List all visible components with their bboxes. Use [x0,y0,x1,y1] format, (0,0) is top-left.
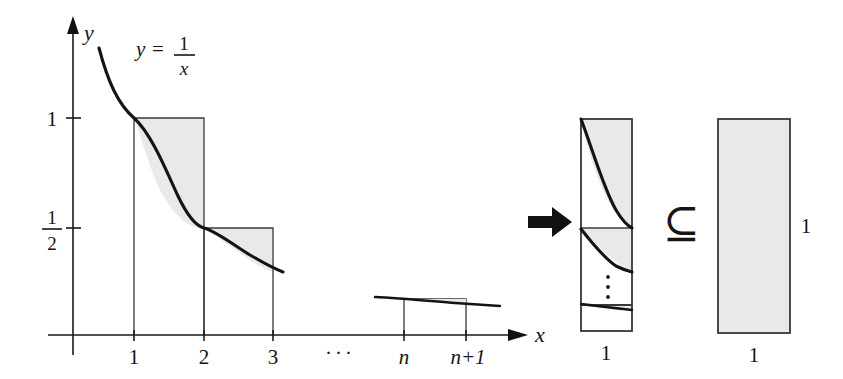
x-tick-label-3: 3 [268,345,279,369]
unit-box-panel: 1 1 [718,119,811,367]
subset-symbol: ⊆ [663,199,700,248]
stack-vertical-ellipsis-icon [606,275,610,299]
stack-width-label: 1 [601,341,612,365]
x-tick-label-2: 2 [199,345,210,369]
y-tick-label-one-half: 1 2 [42,207,62,254]
stack-shade-segment-2 [581,229,632,271]
y-axis-arrowhead [67,16,79,34]
curve-label-equals: = [152,37,164,61]
x-axis-arrowhead [508,329,528,341]
unit-box-bottom-label: 1 [749,343,760,367]
stacked-column-panel: 1 [581,119,632,365]
figure-root: y x 1 1 2 1 2 3 ··· n n+1 y = 1 x [0,0,843,379]
x-tick-label-1: 1 [129,345,140,369]
y-axis-label: y [82,20,94,45]
left-panel-graph: y x 1 1 2 1 2 3 ··· n n+1 y = 1 x [42,16,545,369]
harmonic-series-diagram: y x 1 1 2 1 2 3 ··· n n+1 y = 1 x [0,0,843,379]
x-axis-ellipsis: ··· [325,341,355,365]
stack-shade-segment-1 [581,119,632,228]
curve-equation-label: y = 1 x [134,33,195,79]
y-tick-label-1: 1 [47,107,58,131]
fraction-denominator-half: 2 [47,233,57,254]
curve-label-lhs: y [134,37,146,61]
x-axis-label: x [534,322,545,347]
rectangle-bar-n [404,299,466,335]
curve-label-numerator: 1 [179,33,189,54]
x-tick-label-n-plus-1: n+1 [450,345,485,369]
x-tick-label-n: n [399,345,410,369]
curve-label-denominator: x [179,58,189,79]
fraction-numerator-half: 1 [47,207,57,228]
transform-arrow-icon [528,207,572,237]
subset-glyph: ⊆ [663,199,700,248]
unit-box-fill [719,120,789,332]
shaded-region-bar-2 [204,228,273,272]
unit-box-right-label: 1 [801,214,812,238]
